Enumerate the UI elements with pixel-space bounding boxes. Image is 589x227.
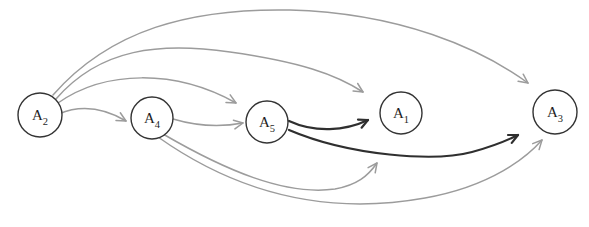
node-A3: A3 [533, 90, 577, 134]
figure-container: A2A4A5A1A3 [0, 0, 589, 227]
edge-A2-A1 [56, 48, 363, 99]
graph-canvas: A2A4A5A1A3 [0, 0, 589, 227]
edge-A4-A3 [158, 137, 542, 204]
node-label-subscript-A3: 3 [558, 113, 563, 124]
edge-A4-A5 [173, 119, 243, 126]
edge-A5-A1 [289, 120, 368, 129]
edge-A2-A4 [59, 109, 126, 121]
node-label-subscript-A2: 2 [43, 116, 48, 127]
node-A1: A1 [380, 92, 422, 134]
node-label-subscript-A5: 5 [270, 123, 275, 134]
node-A2: A2 [18, 93, 62, 137]
edge-A2-A3 [53, 10, 528, 95]
node-A5: A5 [246, 101, 288, 143]
node-label-subscript-A4: 4 [155, 119, 161, 130]
node-A4: A4 [131, 97, 173, 139]
node-label-subscript-A1: 1 [404, 114, 409, 125]
